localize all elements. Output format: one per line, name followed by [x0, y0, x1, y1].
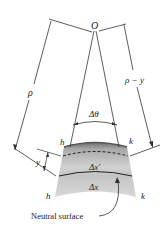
label-h-top: h [60, 137, 65, 147]
radial-line-left [70, 31, 94, 147]
rho-y-dimension-line-upper [124, 25, 133, 70]
diagram-svg: O ρ ρ − y Δθ y h k h k Δx′ Δx Neutral su… [0, 0, 165, 229]
top-tick-left [49, 19, 92, 32]
rho-y-dimension-line-lower [137, 87, 152, 146]
beam-bending-diagram: O ρ ρ − y Δθ y h k h k Δx′ Δx Neutral su… [0, 0, 165, 229]
radial-line-right [96, 31, 119, 147]
delta-theta-arc [73, 122, 117, 126]
label-rho-minus-y: ρ − y [124, 75, 144, 85]
label-rho: ρ [27, 87, 33, 98]
arrowhead-theta-left [73, 122, 78, 125]
label-delta-x: Δx [88, 182, 98, 192]
top-tick-right [99, 24, 126, 31]
label-center-O: O [91, 20, 98, 31]
rho-y-extension-bottom [130, 145, 160, 156]
rho-dimension-line-upper [34, 21, 51, 84]
label-y: y [35, 157, 40, 167]
label-h-bottom: h [46, 191, 51, 201]
rho-extension-bottom [14, 148, 56, 176]
rho-dimension-line-lower [15, 100, 29, 150]
label-k-top: k [129, 136, 134, 146]
label-k-bottom: k [141, 191, 146, 201]
label-neutral-surface: Neutral surface [31, 211, 83, 221]
arrowhead-rho-y-bottom [149, 141, 153, 148]
label-delta-x-prime: Δx′ [88, 162, 101, 172]
label-delta-theta: Δθ [88, 109, 99, 119]
y-extension-top [37, 149, 61, 156]
